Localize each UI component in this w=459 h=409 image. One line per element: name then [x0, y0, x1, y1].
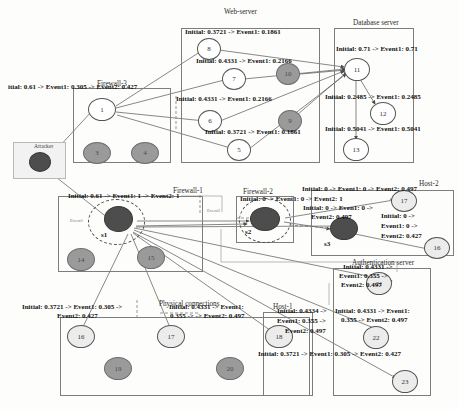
label-node-18-l3: Event2: 0.497 — [285, 327, 326, 336]
node-12[interactable]: 12 — [370, 102, 396, 125]
node-15[interactable]: 15 — [137, 246, 165, 269]
edge-tag-event2-mid: Event2 — [207, 208, 220, 213]
label-node-18-l1: Initial: 0.4334 -> — [277, 307, 327, 316]
label-node-17-l2: 0.355 -> -> Event2: 0.497 — [170, 312, 244, 321]
label-node-8: Initial: 0.3721 -> Event1: 0.1861 — [185, 28, 281, 37]
node-7[interactable]: 7 — [222, 68, 246, 90]
label-node-16-host2-l1: Initial: 0 -> — [381, 212, 415, 221]
label-node-16-l2: Event2: 0.427 — [57, 312, 98, 321]
selector-label-s3: s3 — [324, 240, 330, 248]
label-node-s2: Initial: 0 -> Event1: 0 -> Event2: 1 — [240, 195, 343, 204]
node-16-host2[interactable]: 16 — [424, 237, 450, 259]
label-node-12: Initial: 0.2485 -> Event1: 0.2485 — [325, 93, 421, 102]
node-20[interactable]: 20 — [216, 357, 244, 380]
node-1[interactable]: 1 — [88, 98, 116, 121]
label-node-16-host2-l3: Event2: 0.427 — [381, 232, 422, 241]
edge-tag-event1-left: Event1 — [70, 218, 83, 223]
node-11[interactable]: 11 — [344, 58, 370, 81]
label-node-17-l1: Initial: 0.4331 -> Event1: — [169, 303, 244, 312]
node-17[interactable]: 17 — [157, 325, 185, 348]
selector-label-s2: s2 — [245, 228, 251, 236]
zone-title-webserver: Web-server — [224, 8, 257, 16]
zone-title-database: Database server — [353, 19, 399, 27]
label-node-18-l2: Event1: 0.355 -> — [277, 317, 326, 326]
node-s2[interactable]: 2-Inv — [250, 207, 280, 231]
attacker-label: Attacker — [34, 143, 53, 149]
node-s2-label: 2-Inv — [260, 217, 271, 222]
node-attacker[interactable] — [29, 152, 51, 172]
label-node-16-host2-l2: Event1: 0 -> — [381, 222, 418, 231]
node-14[interactable]: 14 — [67, 248, 95, 271]
label-node-17-host2: Initial: 0 -> Event1: 0 -> Event2: 0.497 — [302, 185, 417, 194]
node-4[interactable]: 4 — [131, 142, 159, 164]
label-node-23: Initial: 0.3721 -> Event1: 0.305 -> Even… — [258, 350, 401, 359]
label-node-11: Initial: 0.71 -> Event1: 0.71 — [336, 45, 418, 54]
label-node-6: Initial: 0.4331 -> Event1: 0.2166 — [176, 95, 272, 104]
node-13[interactable]: 13 — [343, 138, 369, 161]
label-node-21-l1: Initial: 0.4331 -> — [343, 263, 393, 272]
label-node-s3-line1: Initial: 0 -> Even1: 0 -> — [303, 204, 373, 213]
node-5[interactable]: 5 — [227, 139, 251, 161]
label-node-5: Initial: 0.3721 -> Event1: 0.1861 — [205, 128, 301, 137]
node-22[interactable]: 22 — [363, 326, 389, 349]
label-node-22-l2: 0.355 -> Event2: 0.497 — [341, 316, 407, 325]
node-2[interactable] — [104, 206, 133, 232]
node-16[interactable]: 16 — [67, 325, 95, 348]
node-3[interactable]: 3 — [83, 142, 111, 164]
label-node-1: itial: 0.61 -> Event1: 0.305 -> Event2: … — [8, 83, 137, 92]
label-node-16-l1: Initial: 0.3721 -> Event1: 0.305 -> — [22, 303, 122, 312]
zone-title-host2: Host-2 — [419, 180, 439, 188]
label-node-21-l3: Event2: 0.497 — [341, 281, 382, 290]
label-node-s3-line2: Event2: 0.497 — [311, 213, 352, 222]
node-23[interactable]: 23 — [392, 370, 418, 393]
label-node-7: Initial: 0.4331 -> Event1: 0.2166 — [196, 57, 292, 66]
label-node-22-l1: Initial: 0.4331 -> Event1: — [335, 307, 410, 316]
node-19[interactable]: 19 — [104, 357, 132, 380]
attack-graph-figure: Firewall-3 Web-server Database server Fi… — [0, 0, 459, 409]
label-node-13: Initial: 0.5041 -> Event1: 0.5041 — [325, 125, 421, 134]
node-10[interactable]: 10 — [276, 63, 300, 85]
label-node-21-l2: Event1: 0.355 -> — [339, 272, 388, 281]
label-node-2: Initial: 0.61 -> Event1: 1 -> Event2: 1 — [68, 192, 179, 201]
selector-label-s1: s1 — [101, 231, 107, 239]
